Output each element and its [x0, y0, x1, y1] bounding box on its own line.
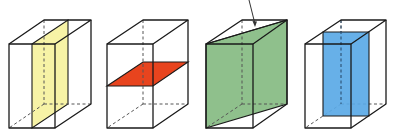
- yellow-section-plane: [32, 20, 68, 128]
- box-2: [107, 20, 188, 128]
- red-section-plane: [107, 62, 188, 86]
- box-4: [305, 20, 386, 128]
- cross-section-diagram: [0, 0, 393, 137]
- box-3: [206, 20, 287, 128]
- pointer-arrow: [249, 0, 257, 27]
- box-1: [9, 20, 91, 128]
